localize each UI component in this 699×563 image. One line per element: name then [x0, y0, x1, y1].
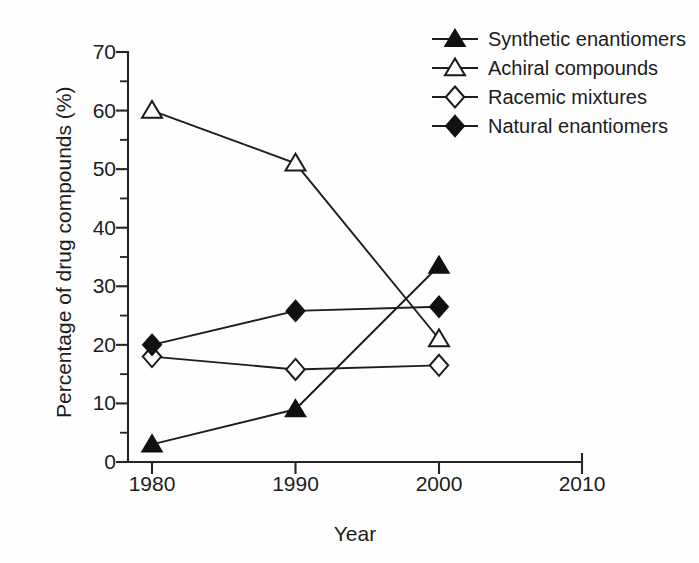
y-tick-label: 50: [68, 157, 116, 181]
open-triangle-marker: [445, 59, 465, 76]
y-tick-label: 20: [68, 333, 116, 357]
legend-label-3: Natural enantiomers: [488, 116, 668, 136]
y-tick-label: 0: [68, 450, 116, 474]
x-tick-label: 2010: [537, 472, 627, 496]
open-triangle-marker: [429, 330, 449, 347]
x-tick-label: 1990: [251, 472, 341, 496]
open-diamond-marker: [430, 355, 448, 376]
open-diamond-marker: [446, 87, 464, 108]
legend-label-1: Achiral compounds: [488, 58, 658, 78]
legend-label-0: Synthetic enantiomers: [488, 29, 686, 49]
x-tick-label: 2000: [394, 472, 484, 496]
axis-spines: [128, 52, 582, 462]
x-axis-title: Year: [128, 522, 582, 546]
y-tick-label: 10: [68, 391, 116, 415]
filled-diamond-marker: [446, 116, 464, 137]
open-triangle-marker: [286, 154, 306, 171]
series-line-0: [152, 266, 439, 445]
chart-series: [142, 101, 449, 452]
legend-markers: [432, 30, 478, 137]
y-tick-label: 30: [68, 274, 116, 298]
filled-triangle-marker: [429, 256, 449, 273]
y-tick-label: 70: [68, 40, 116, 64]
y-tick-label: 40: [68, 216, 116, 240]
filled-diamond-marker: [286, 300, 304, 321]
open-diamond-marker: [286, 359, 304, 380]
x-tick-label: 1980: [107, 472, 197, 496]
y-tick-label: 60: [68, 99, 116, 123]
chart-figure: Percentage of drug compounds (%) Year 01…: [0, 0, 699, 563]
filled-diamond-marker: [430, 296, 448, 317]
filled-triangle-marker: [445, 30, 465, 47]
y-axis-title: Percentage of drug compounds (%): [52, 98, 76, 418]
legend-label-2: Racemic mixtures: [488, 87, 647, 107]
open-triangle-marker: [142, 101, 162, 118]
